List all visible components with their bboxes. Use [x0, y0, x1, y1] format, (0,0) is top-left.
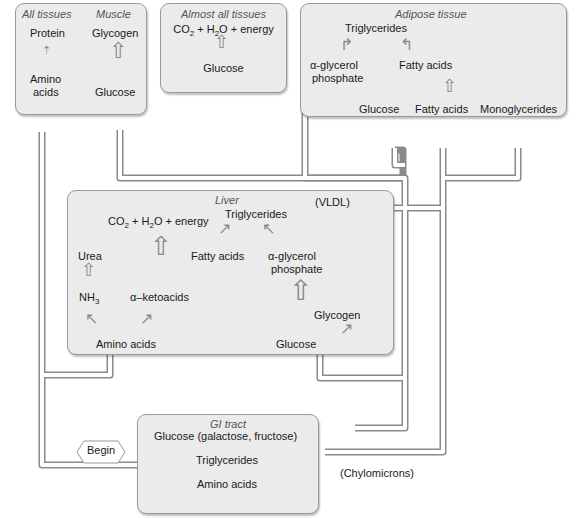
protein-label: Protein [30, 27, 65, 40]
adipose-agp-1: α-glycerol [310, 59, 358, 72]
vldl-label: (VLDL) [315, 196, 350, 209]
curved-arrow-icon: ↖ [85, 312, 98, 325]
adipose-title: Adipose tissue [395, 8, 467, 20]
up-arrow-icon: ⇧ [289, 284, 312, 297]
gi-amino-acids: Amino acids [197, 478, 257, 491]
chylomicrons-label: (Chylomicrons) [340, 467, 414, 480]
curved-arrow-icon: ↱ [340, 38, 353, 51]
curved-arrow-icon: ↗ [218, 222, 231, 235]
liver-products: CO2 + H2O + energy [108, 215, 209, 228]
curved-arrow-icon: ↖ [262, 222, 275, 235]
liver-glycogen: Glycogen [314, 309, 360, 322]
adipose-fatty-acids-mid: Fatty acids [399, 59, 452, 72]
up-arrow-icon: ⇧ [109, 44, 127, 57]
liver-fatty-acids: Fatty acids [191, 250, 244, 263]
gi-glucose: Glucose (galactose, fructose) [154, 430, 297, 443]
up-arrow-icon: ⇧ [214, 36, 229, 49]
liver-amino-acids: Amino acids [96, 338, 156, 351]
amino-label-2: acids [33, 86, 59, 99]
curved-arrow-icon: ↗ [340, 322, 353, 335]
almost-all-glucose: Glucose [160, 62, 287, 75]
up-arrow-icon: ⇧ [442, 80, 457, 93]
liver-agp-1: α-glycerol [268, 250, 316, 263]
amino-label-1: Amino [30, 73, 61, 86]
up-arrow-icon: ⇧ [150, 240, 172, 253]
adipose-triglycerides: Triglycerides [345, 22, 407, 35]
gi-title: GI tract [137, 418, 319, 430]
curved-arrow-icon: ↗ [140, 312, 153, 325]
adipose-fatty-acids: Fatty acids [415, 103, 468, 116]
adipose-monoglycerides: Monoglycerides [480, 103, 557, 116]
dashed-arrow-icon: ⇡ [42, 44, 51, 57]
liver-triglycerides: Triglycerides [225, 208, 287, 221]
nh3-label: NH3 [79, 291, 99, 304]
almost-all-title: Almost all tissues [160, 8, 287, 20]
gi-triglycerides: Triglycerides [196, 454, 258, 467]
begin-label: Begin [76, 440, 126, 460]
muscle-glucose-label: Glucose [95, 86, 135, 99]
adipose-agp-2: phosphate [312, 72, 363, 85]
ketoacids-label: α–ketoacids [130, 291, 189, 304]
all-tissues-title: All tissues [22, 8, 72, 20]
muscle-title: Muscle [96, 8, 131, 20]
curved-arrow-icon: ↰ [400, 38, 413, 51]
liver-glucose: Glucose [276, 338, 316, 351]
up-arrow-icon: ⇧ [81, 264, 96, 277]
liver-title: Liver [215, 194, 239, 206]
adipose-glucose: Glucose [359, 103, 399, 116]
